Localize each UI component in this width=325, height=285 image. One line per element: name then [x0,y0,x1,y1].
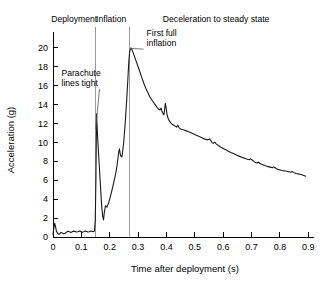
y-tick-label: 4 [43,194,48,204]
y-tick-label: 14 [38,100,48,110]
x-tick-label: 0.8 [274,242,287,252]
annotation-line-1: First full [147,28,177,38]
chart-canvas: 00.10.20.30.40.50.60.70.80.9 02468101214… [0,0,325,285]
y-axis-title: Acceleration (g) [5,107,16,174]
x-tick-label: 0.4 [160,242,173,252]
phase-section-labels: DeploymentInflationDeceleration to stead… [51,14,269,24]
chart-annotations: Parachutelines tightFirst fullinflation [62,28,177,129]
x-tick-label: 0.3 [132,242,145,252]
x-axis-title: Time after deployment (s) [131,263,239,274]
annotation-parachute-lines-tight: Parachutelines tight [62,68,101,129]
y-tick-label: 12 [38,119,48,129]
annotation-line-2: lines tight [62,78,99,88]
y-tick-label: 16 [38,81,48,91]
x-tick-label: 0.2 [103,242,116,252]
annotation-first-full-inflation: First fullinflation [130,28,177,49]
axis-lines [53,32,314,237]
x-tick-label: 0.9 [302,242,315,252]
x-axis-tick-labels: 00.10.20.30.40.50.60.70.80.9 [50,242,314,252]
y-tick-label: 20 [38,43,48,53]
y-tick-label: 10 [38,138,48,148]
chart-axes [53,32,314,237]
y-tick-label: 6 [43,175,48,185]
x-tick-label: 0.5 [189,242,202,252]
annotation-leader-line [96,89,100,129]
annotation-line-1: Parachute [62,68,101,78]
phase-label-deceleration: Deceleration to steady state [163,14,270,24]
x-tick-label: 0.1 [75,242,88,252]
y-axis-tick-labels: 02468101214161820 [38,43,48,243]
y-tick-label: 2 [43,213,48,223]
phase-label-inflation: Inflation [96,14,126,24]
annotation-line-2: inflation [147,38,177,48]
x-tick-label: 0 [50,242,55,252]
x-tick-label: 0.7 [245,242,258,252]
x-tick-label: 0.6 [217,242,230,252]
y-tick-label: 0 [43,232,48,242]
y-tick-label: 18 [38,62,48,72]
acceleration-time-chart: 00.10.20.30.40.50.60.70.80.9 02468101214… [0,0,325,285]
phase-label-deployment: Deployment [51,14,97,24]
y-tick-label: 8 [43,156,48,166]
